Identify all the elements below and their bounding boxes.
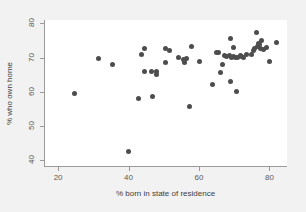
y-axis-label: % who own home — [4, 20, 16, 167]
data-point — [72, 91, 77, 96]
data-point — [228, 79, 233, 84]
data-point — [234, 89, 239, 94]
x-tick-mark — [58, 167, 59, 171]
plot-area — [44, 20, 287, 167]
data-point — [142, 46, 147, 51]
data-point — [218, 70, 223, 75]
x-tick-mark — [129, 167, 130, 171]
data-point — [244, 52, 249, 57]
data-point — [184, 56, 189, 61]
x-tick-label: 40 — [124, 173, 133, 182]
scatter-plot-figure: % born in state of residence % who own h… — [0, 0, 306, 212]
data-point — [254, 30, 259, 35]
data-point — [142, 69, 147, 74]
x-tick-mark — [199, 167, 200, 171]
x-tick-label: 20 — [54, 173, 63, 182]
data-point — [216, 50, 221, 55]
y-axis-label-text: % who own home — [6, 62, 15, 125]
x-tick-mark — [269, 167, 270, 171]
y-tick-label: 60 — [24, 87, 38, 96]
data-point — [167, 48, 172, 53]
y-tick-mark — [40, 160, 44, 161]
x-axis-label: % born in state of residence — [44, 189, 287, 198]
y-tick-mark — [40, 92, 44, 93]
y-tick-mark — [40, 126, 44, 127]
data-point — [136, 96, 141, 101]
data-point — [231, 45, 236, 50]
data-point — [264, 45, 269, 50]
data-point — [110, 62, 115, 67]
x-tick-label: 80 — [265, 173, 274, 182]
data-point — [220, 62, 225, 67]
data-points-layer — [45, 20, 287, 166]
data-point — [274, 40, 279, 45]
data-point — [259, 38, 264, 43]
y-tick-mark — [40, 58, 44, 59]
data-point — [139, 52, 144, 57]
data-point — [187, 104, 192, 109]
data-point — [210, 82, 215, 87]
y-tick-label: 70 — [24, 53, 38, 62]
data-point — [126, 149, 131, 154]
y-tick-label: 50 — [24, 121, 38, 130]
y-tick-label: 80 — [24, 18, 38, 27]
y-tick-label: 40 — [24, 155, 38, 164]
data-point — [267, 59, 272, 64]
data-point — [96, 56, 101, 61]
data-point — [228, 36, 233, 41]
data-point — [189, 44, 194, 49]
data-point — [176, 55, 181, 60]
data-point — [150, 94, 155, 99]
data-point — [197, 59, 202, 64]
data-point — [163, 60, 168, 65]
x-tick-label: 60 — [195, 173, 204, 182]
y-tick-mark — [40, 23, 44, 24]
